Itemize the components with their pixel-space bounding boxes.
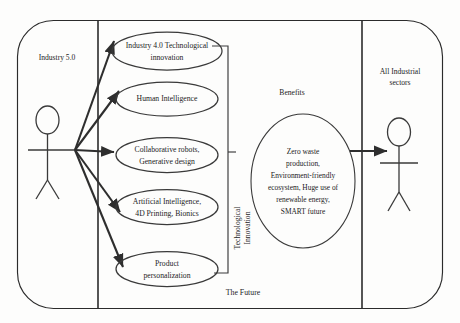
label-industry-5-0: Industry 5.0 (39, 53, 76, 62)
label-all-industrial-sectors-line2: sectors (389, 78, 410, 87)
usecase-label-line2: personalization (144, 271, 191, 280)
benefits-text-line-2: Environment-friendly (271, 171, 336, 180)
actor-head-icon (388, 118, 411, 146)
usecase-label-line1: Human Intelligence (137, 94, 198, 103)
usecase-human-intelligence[interactable]: Human Intelligence (116, 82, 218, 116)
usecase-ellipse-shape (116, 138, 218, 173)
label-the-future: The Future (226, 288, 261, 297)
usecase-industry-40[interactable]: Industry 4.0 Technological innovation (112, 32, 222, 70)
actor-leg-left-line (388, 192, 399, 211)
actor-leg-left-line (36, 180, 48, 199)
assoc-actor-to-human-intelligence (75, 91, 119, 150)
usecase-label-line2: Generative design (139, 157, 195, 166)
benefits-text-line-4: renewable energy, (276, 195, 330, 204)
benefits-ellipse-shape (251, 114, 355, 248)
bracket-label-line1: Technological (233, 207, 242, 250)
actor-leg-right-line (399, 192, 410, 211)
usecase-collaborative-robots[interactable]: Collaborative robots, Generative design (116, 138, 218, 173)
usecase-label-line2: 4D Printing, Bionics (135, 209, 198, 218)
label-benefits: Benefits (279, 88, 304, 97)
assoc-actor-to-industry-40 (75, 41, 114, 150)
assoc-actor-to-collaborative-robots (75, 150, 114, 152)
usecase-ellipse-shape (112, 32, 222, 70)
industry-5-actor (28, 106, 75, 199)
industrial-sectors-actor (380, 118, 418, 211)
usecase-diagram-canvas: Industry 5.0 All Industrial sectors Indu… (0, 0, 460, 323)
grouping-bracket (212, 46, 228, 273)
bracket-label-line2: Innovation (243, 211, 252, 244)
usecase-label-line1: Collaborative robots, (135, 145, 200, 154)
label-all-industrial-sectors-line1: All Industrial (380, 67, 421, 76)
usecase-label-line1: Artificial Intelligence, (133, 197, 201, 206)
usecase-artificial-intelligence[interactable]: Artificial Intelligence, 4D Printing, Bi… (116, 190, 218, 225)
benefits-text-line-3: ecosystem, Huge use of (268, 183, 339, 192)
benefits-text-line-1: production, (286, 159, 320, 168)
usecase-benefits[interactable]: Zero waste production, Environment-frien… (251, 114, 355, 248)
usecase-label-line1: Product (155, 259, 180, 268)
benefits-text-line-0: Zero waste (287, 147, 320, 156)
usecase-product-personalization[interactable]: Product personalization (116, 252, 218, 287)
usecase-label-line2: innovation (151, 53, 184, 62)
usecase-ellipse-shape (116, 190, 218, 225)
actor-leg-right-line (48, 180, 60, 199)
usecase-label-line1: Industry 4.0 Technological (126, 41, 208, 50)
usecase-ellipse-shape (116, 252, 218, 287)
benefits-text-line-5: SMART future (281, 207, 326, 216)
actor-head-icon (36, 106, 59, 134)
